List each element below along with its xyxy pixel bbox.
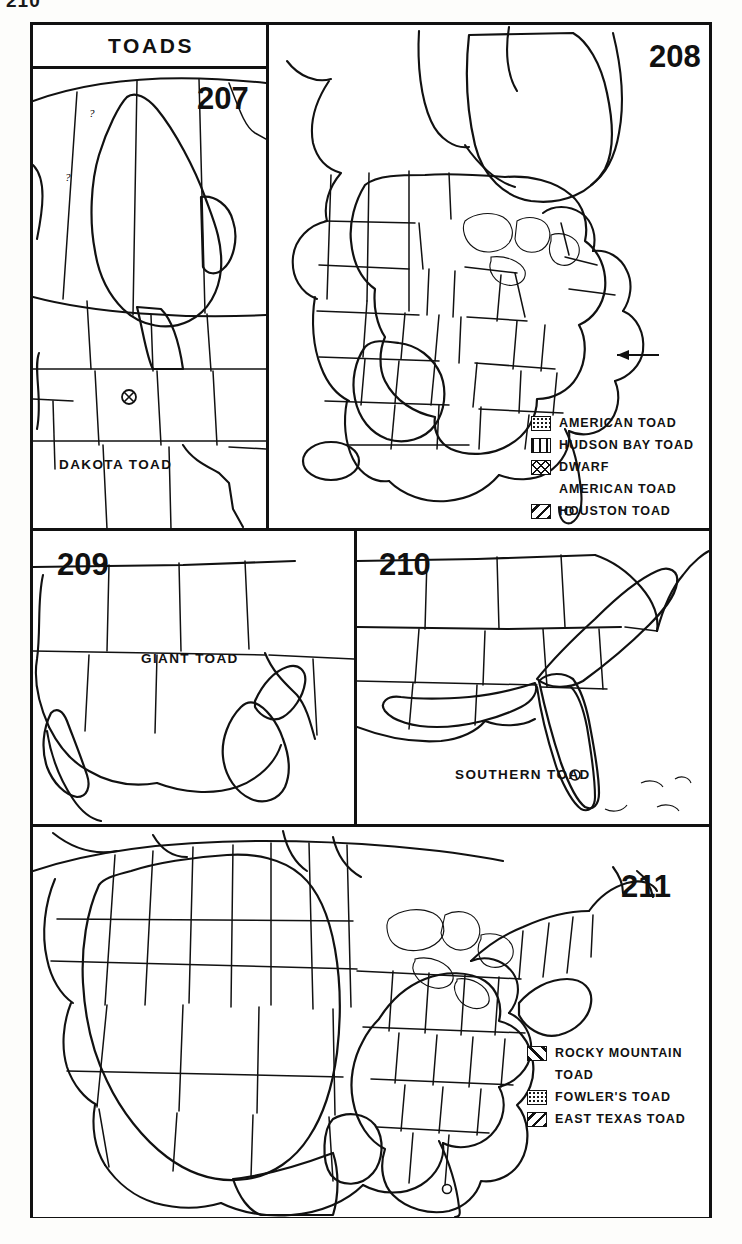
legend-row[interactable]: HOUSTON TOAD (531, 501, 694, 521)
swatch-crosshatch-icon (531, 460, 551, 475)
range-houston-toad (303, 442, 359, 480)
plate-title-bar: TOADS (33, 25, 269, 69)
legend-label: ROCKY MOUNTAIN (555, 1046, 682, 1060)
panel-209-giant-toad[interactable]: 209 (33, 531, 357, 827)
legend-row-continuation: AMERICAN TOAD (531, 479, 694, 499)
caption-207: DAKOTA TOAD (59, 457, 172, 472)
range-southern-toad-gulf (383, 683, 536, 727)
legend-row[interactable]: DWARF (531, 457, 694, 477)
panel-207-dakota-toad[interactable]: TOADS 207 (33, 25, 269, 531)
panel-210-southern-toad[interactable]: 210 (357, 531, 709, 827)
legend-label: EAST TEXAS TOAD (555, 1112, 686, 1126)
caption-210: SOUTHERN TOAD (455, 767, 591, 782)
range-fowlers-toad-northeast (519, 979, 591, 1036)
page-number: 210 (6, 0, 41, 12)
legend-row-continuation: TOAD (527, 1065, 686, 1085)
legend-label: AMERICAN TOAD (559, 482, 677, 496)
legend-label: FOWLER'S TOAD (555, 1090, 671, 1104)
legend-208: AMERICAN TOAD HUDSON BAY TOAD DWARF AMER… (531, 413, 694, 523)
legend-211: ROCKY MOUNTAIN TOAD FOWLER'S TOAD EAST T… (527, 1043, 686, 1131)
legend-row[interactable]: ROCKY MOUNTAIN (527, 1043, 686, 1063)
plate-frame: TOADS 207 (30, 22, 712, 1218)
uncertainty-marker-1: ? (89, 107, 95, 119)
legend-row[interactable]: FOWLER'S TOAD (527, 1087, 686, 1107)
range-dwarf-american-toad (353, 341, 444, 441)
map-209 (33, 531, 354, 824)
legend-label: TOAD (555, 1068, 594, 1082)
swatch-diagonal-right-icon (527, 1112, 547, 1127)
legend-row[interactable]: HUDSON BAY TOAD (531, 435, 694, 455)
isolated-population-symbol (122, 390, 136, 404)
caption-209: GIANT TOAD (141, 651, 239, 666)
uncertainty-marker-2: ? (65, 171, 71, 183)
legend-row[interactable]: AMERICAN TOAD (531, 413, 694, 433)
range-arrow (617, 350, 659, 360)
legend-row[interactable]: EAST TEXAS TOAD (527, 1109, 686, 1129)
range-giant-toad-northeast (255, 666, 305, 719)
swatch-diagonal-left-icon (527, 1046, 547, 1061)
swatch-vertical-bars-icon (531, 438, 551, 453)
swatch-stipple-icon (527, 1090, 547, 1105)
florida-lake-marker-211 (443, 1185, 452, 1194)
legend-label: HOUSTON TOAD (559, 504, 671, 518)
panel-208-american-toad[interactable]: 208 (269, 25, 709, 531)
map-211 (33, 827, 709, 1217)
legend-label: DWARF (559, 460, 609, 474)
legend-label: HUDSON BAY TOAD (559, 438, 694, 452)
panel-211-rocky-mountain-toad[interactable]: 211 (33, 827, 709, 1217)
legend-label: AMERICAN TOAD (559, 416, 677, 430)
swatch-diagonal-right-icon (531, 504, 551, 519)
range-rocky-mountain-toad (83, 855, 340, 1180)
plate-title: TOADS (108, 34, 194, 58)
swatch-stipple-icon (531, 416, 551, 431)
